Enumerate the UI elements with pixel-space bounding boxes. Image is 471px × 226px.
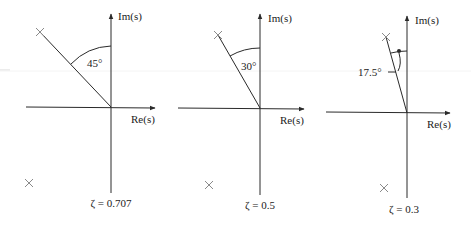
imag-axis-label: Im(s): [118, 10, 142, 23]
zeta-label: ζ = 0.707: [90, 197, 132, 210]
angle-leader-curve: [398, 53, 400, 71]
s-plane-figure: Im(s) Re(s) 45° ζ = 0.707 Im(s) Re(s) 30…: [0, 0, 471, 226]
panel-zeta-03: Im(s) Re(s) 17.5° ζ = 0.3: [326, 14, 451, 216]
real-axis-label: Re(s): [280, 114, 304, 127]
angle-label: 45°: [87, 57, 102, 69]
angle-label: 30°: [241, 60, 256, 72]
real-axis: [26, 107, 155, 108]
damping-ray: [40, 32, 111, 107]
real-axis: [326, 112, 450, 113]
damping-ray: [386, 37, 407, 113]
panel-zeta-0707: Im(s) Re(s) 45° ζ = 0.707: [25, 10, 155, 210]
zeta-label: ζ = 0.3: [389, 203, 420, 216]
real-axis: [178, 108, 304, 109]
zeta-label: ζ = 0.5: [245, 199, 276, 212]
angle-label: 17.5°: [358, 66, 382, 78]
pole-upper-icon: [382, 33, 390, 41]
arc-dot: [397, 49, 401, 53]
real-axis-label: Re(s): [427, 118, 451, 131]
imag-axis-label: Im(s): [268, 12, 292, 25]
pole-lower-icon: [205, 181, 213, 189]
angle-arc: [230, 48, 260, 56]
pole-lower-icon: [25, 179, 33, 187]
pole-lower-icon: [380, 184, 388, 192]
panel-zeta-05: Im(s) Re(s) 30° ζ = 0.5: [178, 12, 304, 212]
pole-upper-icon: [36, 28, 44, 36]
imag-axis-label: Im(s): [415, 14, 439, 27]
pole-upper-icon: [214, 31, 222, 39]
real-axis-label: Re(s): [131, 113, 155, 126]
